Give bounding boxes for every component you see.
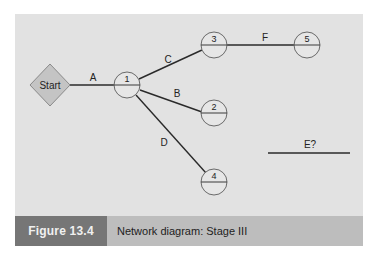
figure-title: Network diagram: Stage III [107,225,247,237]
edge-label-d: D [160,137,167,148]
edge-label-e: E? [304,139,317,150]
node-3-label: 3 [211,34,216,44]
node-5: 5 [294,32,320,58]
node-4-label: 4 [211,171,216,181]
edge-label-a: A [90,72,97,83]
node-1-label: 1 [124,74,129,84]
edge-label-f: F [262,32,268,43]
figure-number: Figure 13.4 [15,216,107,246]
figure-caption: Figure 13.4 Network diagram: Stage III [15,216,363,246]
edge-b [140,90,202,112]
node-3: 3 [201,32,227,58]
start-label: Start [39,80,60,91]
edge-label-b: B [174,88,181,99]
node-1: 1 [114,72,140,98]
node-5-label: 5 [304,34,309,44]
edge-d [136,95,206,173]
node-2: 2 [201,100,227,126]
node-4: 4 [201,169,227,195]
node-2-label: 2 [211,102,216,112]
edge-label-c: C [164,54,171,65]
